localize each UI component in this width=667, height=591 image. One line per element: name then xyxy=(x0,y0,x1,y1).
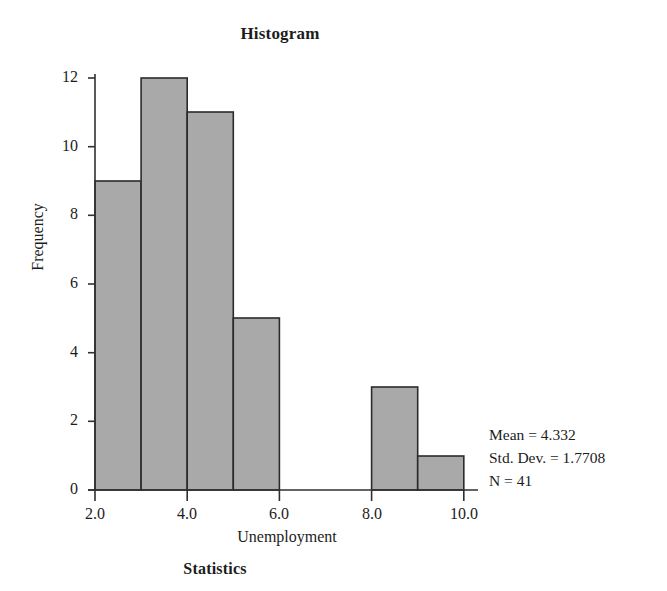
y-tick-label-6: 6 xyxy=(38,274,78,292)
stat-std-dev: Std. Dev. = 1.7708 xyxy=(489,446,605,469)
stat-n: N = 41 xyxy=(489,469,605,492)
bar-bin-3-4 xyxy=(141,78,187,490)
y-tick-label-8: 8 xyxy=(38,205,78,223)
bar-bin-2-3 xyxy=(95,181,141,490)
x-ticks-major xyxy=(95,490,464,501)
bar-bin-4-5 xyxy=(187,112,233,490)
figure-caption: Statistics xyxy=(0,560,430,578)
statistics-annotation: Mean = 4.332 Std. Dev. = 1.7708 N = 41 xyxy=(489,423,605,492)
y-tick-label-4: 4 xyxy=(38,343,78,361)
x-tick-label-2: 2.0 xyxy=(60,505,130,523)
y-tick-label-0: 0 xyxy=(38,480,78,498)
y-ticks xyxy=(88,78,95,490)
x-tick-label-10: 10.0 xyxy=(429,505,499,523)
y-tick-label-12: 12 xyxy=(38,68,78,86)
bar-bin-9-10 xyxy=(418,456,464,490)
plot-area xyxy=(0,0,667,591)
y-tick-label-2: 2 xyxy=(38,411,78,429)
x-tick-label-8: 8.0 xyxy=(337,505,407,523)
bar-bin-5-6 xyxy=(233,318,279,490)
bar-bin-8-9 xyxy=(372,387,418,490)
x-tick-label-4: 4.0 xyxy=(152,505,222,523)
histogram-figure: Histogram xyxy=(0,0,667,591)
x-tick-label-6: 6.0 xyxy=(244,505,314,523)
bars-group xyxy=(95,78,464,490)
y-tick-label-10: 10 xyxy=(38,137,78,155)
stat-mean: Mean = 4.332 xyxy=(489,423,605,446)
x-axis-label: Unemployment xyxy=(95,528,479,546)
